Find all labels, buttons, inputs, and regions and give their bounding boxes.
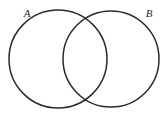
set-label-b: B: [146, 7, 153, 19]
venn-diagram-canvas: A B: [0, 0, 167, 114]
set-label-a: A: [23, 7, 31, 19]
venn-diagram-figure: A B: [0, 0, 167, 114]
